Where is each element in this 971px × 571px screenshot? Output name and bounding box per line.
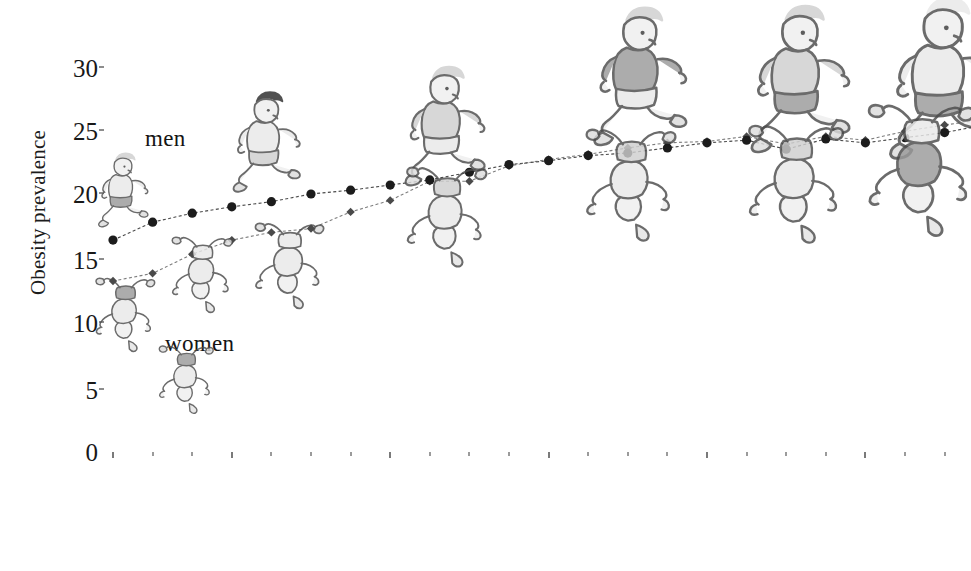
x-tick-mark: [785, 452, 787, 456]
y-tick-30: 30: [54, 56, 98, 81]
cartwheel-person-icon-women-2004: [573, 122, 685, 246]
x-tick-mark: [627, 452, 629, 456]
running-person-icon-men-1996: [223, 88, 307, 204]
x-tick-mark: [350, 452, 352, 456]
data-point-men: [346, 208, 354, 216]
cartwheel-person-icon-women-2008: [735, 118, 853, 248]
x-tick-mark: [468, 452, 470, 456]
x-tick-mark: [904, 452, 906, 456]
y-tick-mark-5: [99, 388, 104, 390]
cartwheel-person-icon-women-2000: [395, 160, 495, 272]
y-tick-mark-25: [99, 129, 104, 131]
x-tick-mark: [944, 452, 946, 456]
obesity-prevalence-chart: Obesity prevalence 30 25 20 15 10 5 0 me…: [0, 0, 971, 571]
plot-area: 1993–51996–82000–22004–62008–102013–15: [105, 0, 971, 571]
cartwheel-person-icon-women-1996: [245, 218, 331, 312]
x-tick-mark: [666, 452, 668, 456]
y-tick-25: 25: [54, 119, 98, 144]
x-tick-mark: [231, 452, 233, 458]
x-tick-mark: [864, 452, 866, 458]
data-point-women: [108, 235, 117, 244]
cartwheel-person-icon-women-1993: [87, 272, 161, 356]
data-point-women: [544, 156, 553, 165]
x-tick-mark: [310, 452, 312, 456]
y-tick-mark-15: [99, 258, 104, 260]
y-tick-mark-30: [99, 66, 104, 68]
cartwheel-person-icon-women-1994: [151, 338, 219, 420]
y-tick-5: 5: [54, 378, 98, 403]
data-point-women: [702, 138, 711, 147]
x-tick-mark: [548, 452, 550, 458]
x-tick-mark: [389, 452, 391, 458]
cartwheel-person-icon-women-2013: [853, 96, 971, 242]
x-tick-mark: [746, 452, 748, 456]
data-point-women: [188, 209, 197, 218]
x-tick-mark: [587, 452, 589, 456]
x-tick-mark: [152, 452, 154, 456]
data-point-women: [346, 186, 355, 195]
x-tick-mark: [825, 452, 827, 456]
y-tick-0: 0: [54, 440, 98, 465]
x-tick-mark: [429, 452, 431, 456]
y-axis-label: Obesity prevalence: [26, 83, 51, 343]
x-tick-mark: [270, 452, 272, 456]
cartwheel-person-icon-women-1995: [163, 230, 239, 318]
data-point-women: [306, 189, 315, 198]
x-tick-mark: [508, 452, 510, 456]
x-tick-mark: [191, 452, 193, 456]
running-person-icon-men-1993: [91, 150, 153, 236]
data-point-women: [504, 160, 513, 169]
x-tick-mark: [706, 452, 708, 458]
y-tick-15: 15: [54, 248, 98, 273]
x-tick-mark: [112, 452, 114, 458]
